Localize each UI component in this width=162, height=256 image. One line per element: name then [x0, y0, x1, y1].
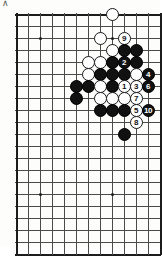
move-number-label: 10 — [143, 105, 154, 117]
move-number-label: 1 — [119, 81, 130, 93]
star-point — [39, 193, 42, 196]
stone-black — [130, 44, 143, 57]
board-gridline-vertical — [148, 13, 149, 255]
stone-white — [106, 92, 119, 105]
move-stone-7: 7 — [130, 92, 143, 105]
stone-black — [94, 104, 107, 117]
move-number-label: 3 — [131, 81, 142, 93]
stone-white — [106, 8, 119, 21]
stone-black — [106, 80, 119, 93]
board-gridline-vertical — [64, 13, 65, 255]
board-gridline-vertical — [88, 13, 89, 255]
stone-white — [94, 92, 107, 105]
stone-black — [118, 68, 131, 81]
move-number-label: 2 — [119, 57, 130, 69]
star-point — [39, 37, 42, 40]
stone-white — [82, 68, 95, 81]
stone-white — [94, 32, 107, 45]
stone-white — [118, 92, 131, 105]
stone-white — [130, 68, 143, 81]
board-gridline-vertical — [160, 13, 162, 255]
move-number-label: 5 — [131, 105, 142, 117]
stone-black — [118, 128, 131, 141]
move-stone-6: 6 — [142, 80, 155, 93]
stone-white — [94, 80, 107, 93]
move-number-label: 9 — [119, 33, 130, 45]
stone-white — [94, 56, 107, 69]
move-number-label: 6 — [143, 81, 154, 93]
stone-black — [70, 80, 83, 93]
move-stone-10: 10 — [142, 104, 155, 117]
board-gridline-vertical — [52, 13, 53, 255]
star-point — [111, 193, 114, 196]
board-gridline-vertical — [76, 13, 77, 255]
move-stone-9: 9 — [118, 32, 131, 45]
stone-black — [106, 56, 119, 69]
move-stone-1: 1 — [118, 80, 131, 93]
stone-white — [82, 56, 95, 69]
stone-black — [94, 68, 107, 81]
stone-black — [106, 104, 119, 117]
star-point — [111, 37, 114, 40]
stone-black — [70, 92, 83, 105]
stone-black — [82, 80, 95, 93]
board-gridline-vertical — [100, 13, 101, 255]
stone-black — [118, 104, 131, 117]
move-stone-5: 5 — [130, 104, 143, 117]
move-number-label: 7 — [131, 93, 142, 105]
move-stone-2: 2 — [118, 56, 131, 69]
board-gridline-vertical — [16, 13, 18, 255]
stone-black — [118, 44, 131, 57]
board-gridline-vertical — [40, 13, 41, 255]
move-stone-8: 8 — [130, 116, 143, 129]
stone-black — [130, 56, 143, 69]
stone-black — [106, 68, 119, 81]
board-gridline-vertical — [28, 13, 29, 255]
move-number-label: 8 — [131, 117, 142, 129]
move-number-label: 4 — [143, 69, 154, 81]
move-stone-4: 4 — [142, 68, 155, 81]
stone-white — [106, 44, 119, 57]
move-stone-3: 3 — [130, 80, 143, 93]
